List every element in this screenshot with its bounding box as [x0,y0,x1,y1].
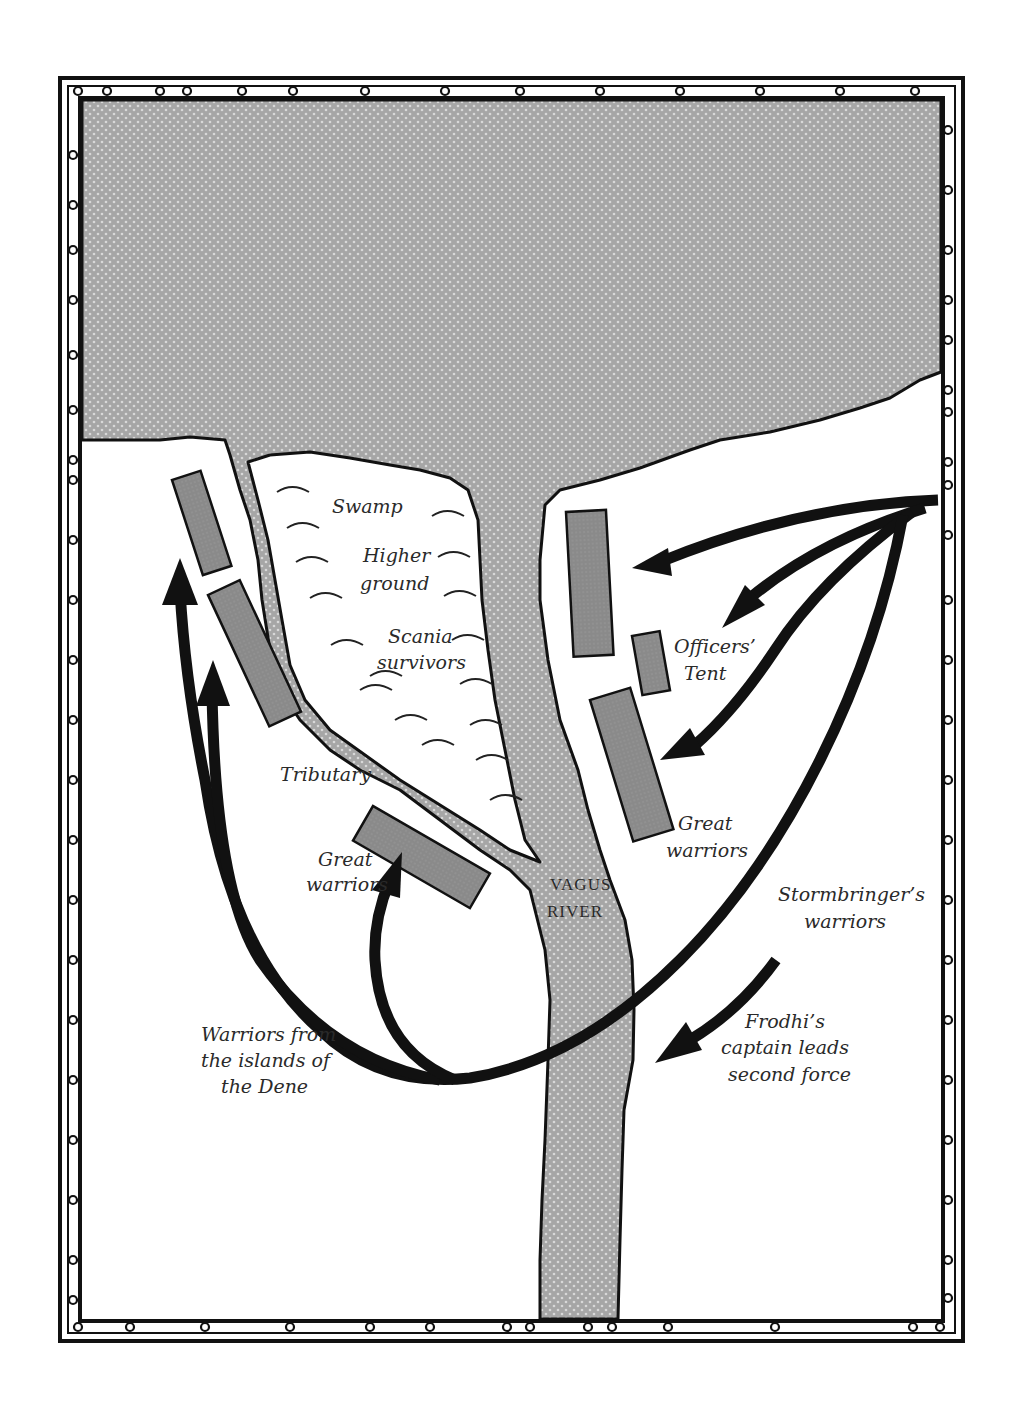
label-frodhi-2: captain leads [721,1036,849,1058]
label-frodhi-3: second force [728,1063,851,1085]
label-swamp: Swamp [332,495,403,517]
label-great-left-2: warriors [306,873,388,895]
label-officers-2: Tent [684,662,727,684]
label-scania-2: survivors [377,651,466,673]
label-higher-ground-2: ground [360,572,429,594]
officers-tent [632,631,670,695]
battle-map: Swamp Higher ground Scania survivors Off… [0,0,1020,1417]
label-great-right-2: warriors [666,839,748,861]
label-dene-2: the islands of [201,1049,333,1071]
label-great-right-1: Great [678,812,733,834]
label-stormbringer-2: warriors [804,910,886,932]
label-tributary: Tributary [280,763,371,785]
label-great-left-1: Great [318,848,373,870]
label-frodhi-1: Frodhi’s [744,1010,825,1032]
label-river-2: River [547,902,603,921]
camp-left-upper [172,471,231,575]
label-higher-ground-1: Higher [362,544,432,566]
arrow-dene-to-center-camp [375,880,455,1080]
label-stormbringer-1: Stormbringer’s [778,883,925,905]
label-scania-1: Scania [388,625,453,647]
label-dene-3: the Dene [221,1075,308,1097]
label-river-1: Vagus [550,875,611,894]
label-dene-1: Warriors from [201,1023,336,1045]
camp-right-upper [566,510,614,657]
label-officers-1: Officers’ [674,635,756,657]
camp-right-lower [590,688,673,842]
